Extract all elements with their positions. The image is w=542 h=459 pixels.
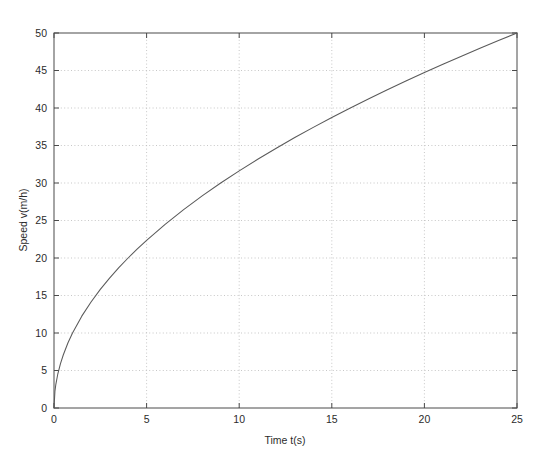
y-tick-label: 20 bbox=[35, 252, 47, 264]
y-tick-label: 15 bbox=[35, 289, 47, 301]
speed-vs-time-chart: 0510152025 05101520253035404550 Time t(s… bbox=[0, 0, 542, 459]
x-tick-label: 5 bbox=[144, 413, 150, 425]
x-tick-label: 10 bbox=[233, 413, 245, 425]
y-tick-label: 45 bbox=[35, 64, 47, 76]
x-axis-title: Time t(s) bbox=[264, 434, 305, 446]
x-axis-tick-labels: 0510152025 bbox=[51, 413, 523, 425]
y-tick-label: 5 bbox=[41, 364, 47, 376]
y-tick-label: 40 bbox=[35, 102, 47, 114]
y-tick-label: 30 bbox=[35, 177, 47, 189]
y-tick-label: 35 bbox=[35, 139, 47, 151]
y-tick-label: 50 bbox=[35, 27, 47, 39]
x-tick-label: 0 bbox=[51, 413, 57, 425]
y-tick-label: 25 bbox=[35, 214, 47, 226]
y-tick-label: 10 bbox=[35, 327, 47, 339]
figure-canvas: 0510152025 05101520253035404550 Time t(s… bbox=[0, 0, 542, 459]
y-tick-label: 0 bbox=[41, 402, 47, 414]
gridlines bbox=[54, 33, 517, 408]
y-axis-tick-labels: 05101520253035404550 bbox=[35, 27, 47, 414]
y-axis-title: Speed v(m/h) bbox=[17, 188, 29, 251]
x-tick-label: 25 bbox=[511, 413, 523, 425]
x-tick-label: 20 bbox=[419, 413, 431, 425]
x-tick-label: 15 bbox=[326, 413, 338, 425]
